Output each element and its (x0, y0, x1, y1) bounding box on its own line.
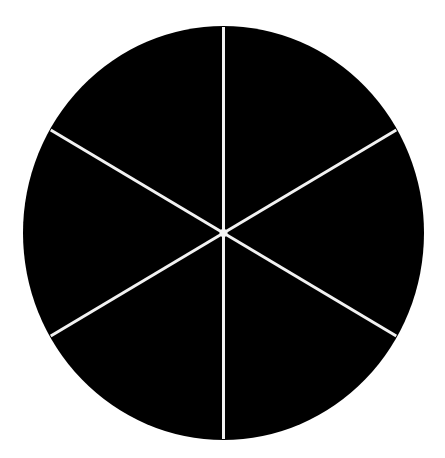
center-point (220, 229, 228, 237)
divided-circle-diagram (0, 0, 445, 458)
